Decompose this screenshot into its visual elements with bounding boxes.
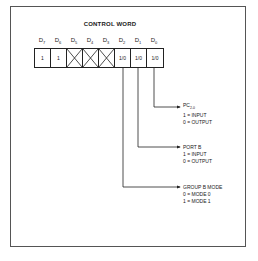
desc-group-b-mode-head: GROUP B MODE bbox=[183, 184, 222, 191]
desc-port-b-line2: 0 = OUTPUT bbox=[183, 158, 212, 165]
desc-group-b-mode-line1: 0 = MODE 0 bbox=[183, 191, 222, 198]
desc-port-b-head: PORT B bbox=[183, 144, 212, 151]
desc-pc-lower-head: PC2-0 bbox=[183, 102, 212, 112]
arrow-d0 bbox=[154, 68, 180, 107]
desc-group-b-mode: GROUP B MODE 0 = MODE 0 1 = MODE 1 bbox=[183, 184, 222, 205]
desc-pc-lower: PC2-0 1 = INPUT 0 = OUTPUT bbox=[183, 102, 212, 126]
connector-lines bbox=[0, 0, 258, 261]
desc-port-b-line1: 1 = INPUT bbox=[183, 151, 212, 158]
desc-group-b-mode-line2: 1 = MODE 1 bbox=[183, 198, 222, 205]
arrow-d2 bbox=[123, 68, 180, 187]
desc-pc-lower-line1: 1 = INPUT bbox=[183, 112, 212, 119]
desc-pc-lower-line2: 0 = OUTPUT bbox=[183, 119, 212, 126]
arrow-d1 bbox=[138, 68, 180, 147]
desc-port-b: PORT B 1 = INPUT 0 = OUTPUT bbox=[183, 144, 212, 165]
